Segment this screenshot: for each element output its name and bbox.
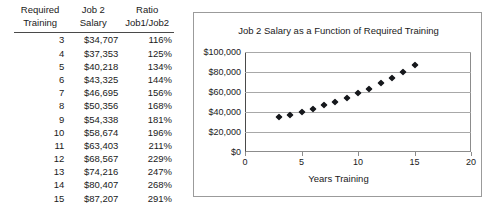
plot-area: $0$20,000$40,000$60,000$80,000$100,000 0… [245,52,471,152]
table-row: 13$74,216247% [14,166,174,179]
screenshot-root: Required Job 2 Ratio Training Salary Job… [0,0,492,212]
cell-ratio: 134% [120,60,174,73]
x-tick-mark [415,152,416,156]
header-job2-salary-line1: Job 2 [66,4,120,17]
cell-job2-salary: $68,567 [66,153,120,166]
x-tick-label: 5 [299,157,304,167]
table-head: Required Job 2 Ratio Training Salary Job… [14,4,174,33]
cell-job2-salary: $54,338 [66,113,120,126]
x-tick-mark [471,152,472,156]
y-tick-label: $80,000 [208,67,241,77]
salary-data-table: Required Job 2 Ratio Training Salary Job… [14,4,174,206]
table-row: 15$87,207291% [14,192,174,205]
table-row: 9$54,338181% [14,113,174,126]
table-row: 4$37,353125% [14,47,174,60]
table-row: 5$40,218134% [14,60,174,73]
cell-ratio: 125% [120,47,174,60]
cell-ratio: 181% [120,113,174,126]
header-ratio-line1: Ratio [120,4,174,17]
cell-ratio: 291% [120,192,174,205]
cell-job2-salary: $74,216 [66,166,120,179]
cell-job2-salary: $40,218 [66,60,120,73]
cell-required-training: 15 [14,192,66,205]
cell-required-training: 11 [14,140,66,153]
cell-required-training: 8 [14,100,66,113]
table-row: 14$80,407268% [14,179,174,192]
table-body: 3$34,707116%4$37,353125%5$40,218134%6$43… [14,33,174,206]
x-axis-title: Years Training [194,173,483,184]
cell-job2-salary: $37,353 [66,47,120,60]
table-row: 6$43,325144% [14,74,174,87]
plot-frame [245,52,471,152]
cell-job2-salary: $46,695 [66,87,120,100]
x-tick-mark [302,152,303,156]
header-required-training-line2: Training [14,17,66,30]
cell-job2-salary: $87,207 [66,192,120,205]
cell-job2-salary: $34,707 [66,33,120,48]
y-tick-label: $100,000 [203,47,241,57]
y-tick-label: $0 [231,147,241,157]
cell-ratio: 196% [120,126,174,139]
cell-ratio: 211% [120,140,174,153]
cell-required-training: 9 [14,113,66,126]
cell-job2-salary: $63,403 [66,140,120,153]
cell-required-training: 4 [14,47,66,60]
x-tick-mark [245,152,246,156]
chart-title: Job 2 Salary as a Function of Required T… [194,25,483,36]
y-tick-label: $60,000 [208,87,241,97]
cell-ratio: 268% [120,179,174,192]
header-required-training-line1: Required [14,4,66,17]
table-row: 12$68,567229% [14,153,174,166]
cell-ratio: 144% [120,74,174,87]
y-tick-label: $20,000 [208,127,241,137]
cell-required-training: 12 [14,153,66,166]
cell-job2-salary: $50,356 [66,100,120,113]
table-header-row-line2: Training Salary Job1/Job2 [14,17,174,30]
x-tick-label: 20 [466,157,476,167]
cell-required-training: 10 [14,126,66,139]
gridline [245,132,471,133]
cell-ratio: 116% [120,33,174,48]
cell-job2-salary: $58,674 [66,126,120,139]
cell-required-training: 6 [14,74,66,87]
cell-ratio: 229% [120,153,174,166]
x-tick-label: 0 [242,157,247,167]
x-tick-label: 10 [353,157,363,167]
table-row: 8$50,356168% [14,100,174,113]
table-row: 11$63,403211% [14,140,174,153]
cell-required-training: 3 [14,33,66,48]
cell-required-training: 14 [14,179,66,192]
cell-job2-salary: $43,325 [66,74,120,87]
cell-ratio: 156% [120,87,174,100]
x-tick-label: 15 [409,157,419,167]
header-ratio-line2: Job1/Job2 [120,17,174,30]
salary-chart-panel: Job 2 Salary as a Function of Required T… [193,12,482,197]
cell-required-training: 5 [14,60,66,73]
table-header-row-line1: Required Job 2 Ratio [14,4,174,17]
table-row: 7$46,695156% [14,87,174,100]
gridline [245,52,471,53]
cell-ratio: 168% [120,100,174,113]
gridline [245,72,471,73]
cell-required-training: 13 [14,166,66,179]
cell-required-training: 7 [14,87,66,100]
cell-ratio: 247% [120,166,174,179]
y-tick-label: $40,000 [208,107,241,117]
x-tick-mark [358,152,359,156]
table-row: 10$58,674196% [14,126,174,139]
header-job2-salary-line2: Salary [66,17,120,30]
table-row: 3$34,707116% [14,33,174,48]
salary-data-table-panel: Required Job 2 Ratio Training Salary Job… [0,0,186,212]
cell-job2-salary: $80,407 [66,179,120,192]
